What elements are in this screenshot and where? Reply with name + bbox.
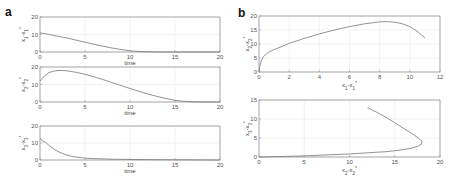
x-tick-label: 15 [391, 159, 398, 165]
y-tick-label: 5 [254, 135, 258, 141]
plot-a2: 0510152001020x2-x2*time [19, 64, 224, 116]
x-axis-label: time [124, 60, 136, 66]
y-tick-label: 10 [31, 140, 38, 146]
x-tick-label: 15 [172, 162, 179, 168]
x-tick-label: 15 [172, 104, 179, 110]
x-tick-label: 0 [257, 159, 261, 165]
y-tick-label: 10 [31, 32, 38, 38]
x-tick-label: 20 [437, 159, 444, 165]
x-axis-label: time [124, 168, 136, 174]
data-line [259, 22, 425, 72]
x-tick-label: 20 [217, 162, 224, 168]
plot-b1: 02468101205101520x2-x2*x1-x1* [243, 13, 444, 91]
y-axis-label: x1-x1* [19, 27, 29, 42]
x-tick-label: 15 [172, 54, 179, 60]
x-tick-label: 10 [346, 159, 353, 165]
x-tick-label: 10 [406, 74, 413, 80]
x-tick-label: 0 [38, 104, 42, 110]
x-tick-label: 5 [83, 104, 87, 110]
y-tick-label: 20 [31, 64, 38, 70]
x-tick-label: 2 [287, 74, 291, 80]
y-axis-label: x3-x3* [243, 121, 253, 136]
y-tick-label: 20 [250, 13, 257, 19]
x-tick-label: 6 [348, 74, 352, 80]
x-tick-label: 4 [318, 74, 322, 80]
x-tick-label: 0 [257, 74, 261, 80]
x-axis-label: x2-x2* [342, 166, 357, 176]
x-tick-label: 5 [303, 159, 307, 165]
x-tick-label: 0 [38, 54, 42, 60]
panel-label-b: b [238, 6, 245, 20]
y-tick-label: 5 [254, 55, 258, 61]
y-tick-label: 20 [31, 14, 38, 20]
y-axis-label: x3-x3* [19, 135, 29, 150]
figure: a b 0510152001020x1-x1*time0510152001020… [0, 0, 458, 189]
y-tick-label: 15 [250, 27, 257, 33]
y-tick-label: 10 [250, 116, 257, 122]
x-tick-label: 20 [217, 54, 224, 60]
plot-b2: 05101520051015x3-x3*x2-x2* [243, 97, 444, 176]
x-tick-label: 12 [437, 74, 444, 80]
x-tick-label: 5 [83, 54, 87, 60]
x-tick-label: 5 [83, 162, 87, 168]
y-tick-label: 10 [31, 82, 38, 88]
y-tick-label: 20 [31, 123, 38, 129]
y-axis-label: x2-x2* [19, 77, 29, 92]
x-tick-label: 8 [378, 74, 382, 80]
x-tick-label: 0 [38, 162, 42, 168]
x-axis-label: time [124, 110, 136, 116]
x-tick-label: 20 [217, 104, 224, 110]
panel-label-a: a [5, 5, 12, 19]
x-axis-label: x1-x1* [342, 81, 357, 91]
plot-a3: 0510152001020x3-x3*time [19, 123, 224, 174]
y-tick-label: 15 [250, 97, 257, 103]
plot-a1: 0510152001020x1-x1*time [19, 14, 224, 66]
data-line [259, 108, 422, 157]
